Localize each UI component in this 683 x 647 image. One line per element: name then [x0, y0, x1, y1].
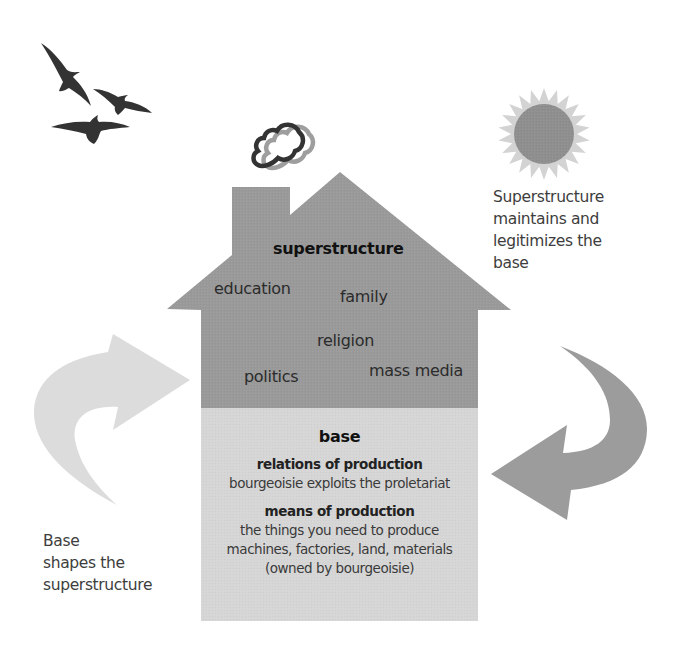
annotation-base-shapes-superstructure: Base shapes the superstructure [43, 530, 152, 596]
annotation-right-line-1: Superstructure [493, 186, 604, 208]
annotation-right-line-4: base [493, 252, 604, 274]
base-title: base [201, 427, 478, 446]
means-of-production-line-3: (owned by bourgeoisie) [201, 560, 478, 576]
institution-mass-media: mass media [369, 363, 463, 379]
annotation-right-line-2: maintains and [493, 208, 604, 230]
base-text-block: base relations of production bourgeoisie… [201, 408, 478, 621]
annotation-right-line-3: legitimizes the [493, 230, 604, 252]
means-of-production-line-1: the things you need to produce [201, 522, 478, 538]
means-of-production-heading: means of production [201, 503, 478, 519]
sun-icon [499, 88, 590, 180]
annotation-left-line-1: Base [43, 530, 152, 552]
curved-arrow-down-left-icon [491, 346, 647, 520]
institution-politics: politics [244, 369, 298, 385]
relations-of-production-description: bourgeoisie exploits the proletariat [201, 475, 478, 491]
institution-religion: religion [317, 333, 374, 349]
birds-icon [41, 43, 152, 144]
relations-of-production-heading: relations of production [201, 456, 478, 472]
chimney-smoke-icon [254, 125, 313, 168]
institution-family: family [340, 289, 388, 305]
means-of-production-line-2: machines, factories, land, materials [201, 541, 478, 557]
annotation-left-line-3: superstructure [43, 574, 152, 596]
institution-education: education [214, 281, 291, 297]
superstructure-title: superstructure [273, 241, 404, 257]
annotation-superstructure-maintains-base: Superstructure maintains and legitimizes… [493, 186, 604, 274]
base-superstructure-diagram: superstructure education family religion… [0, 0, 683, 647]
curved-arrow-up-right-icon [34, 334, 190, 505]
annotation-left-line-2: shapes the [43, 552, 152, 574]
